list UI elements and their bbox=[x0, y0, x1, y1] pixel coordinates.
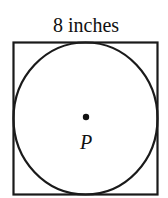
diagram-canvas: 8 inches P bbox=[0, 0, 168, 198]
center-point-label: P bbox=[79, 131, 92, 153]
side-length-label: 8 inches bbox=[53, 14, 119, 36]
center-point bbox=[83, 114, 89, 120]
